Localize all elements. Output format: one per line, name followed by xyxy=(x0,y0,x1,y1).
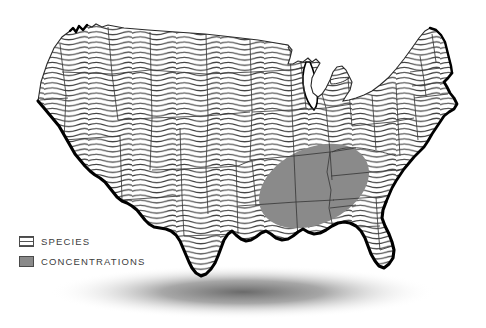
map-drop-shadow xyxy=(50,265,436,319)
legend-swatch-concentrations-icon xyxy=(19,256,34,267)
legend-swatch-species-icon xyxy=(19,236,34,247)
us-map-graphic xyxy=(0,0,486,328)
legend-label-concentrations: CONCENTRATIONS xyxy=(41,256,146,267)
map-legend: SPECIES CONCENTRATIONS xyxy=(19,233,146,273)
species-distribution-figure: SPECIES CONCENTRATIONS xyxy=(0,0,486,328)
legend-item-concentrations[interactable]: CONCENTRATIONS xyxy=(19,253,146,269)
legend-label-species: SPECIES xyxy=(41,236,90,247)
legend-item-species[interactable]: SPECIES xyxy=(19,233,146,249)
